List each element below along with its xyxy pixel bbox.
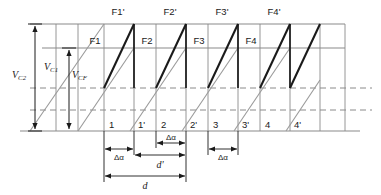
top-f-labels: F1' F2' F3' F4' — [112, 6, 281, 17]
d-label: d — [143, 180, 149, 191]
interval-label-3: 3 — [213, 119, 218, 130]
bold-ramp-1 — [104, 24, 134, 88]
bold-ramp-4 — [260, 24, 290, 88]
label-f1-prime: F1' — [112, 6, 125, 17]
interval-label-1: 1 — [109, 119, 114, 130]
voltage-arrows — [28, 24, 76, 131]
bold-ramp-2 — [156, 24, 186, 88]
label-f3: F3 — [193, 35, 204, 46]
interval-label-1p: 1' — [138, 119, 145, 130]
v-cf-label: VCF — [72, 69, 88, 81]
label-f2-prime: F2' — [164, 6, 177, 17]
diagram-canvas: VC2 VC1 VCF F1' F2' F3' F4' F1 F2 F3 F4 … — [0, 0, 381, 195]
label-f1: F1 — [89, 35, 100, 46]
delta-alpha-label-3: Δα — [218, 153, 228, 162]
label-f4-prime: F4' — [268, 6, 281, 17]
label-f3-prime: F3' — [216, 6, 229, 17]
v-c2-label: VC2 — [12, 69, 27, 81]
d-prime-label: d' — [156, 159, 164, 170]
dimension-labels: Δα Δα Δα d' d — [114, 133, 228, 191]
interval-label-4p: 4' — [294, 119, 301, 130]
interval-labels: 1 1' 2 2' 3 3' 4 4' — [109, 119, 301, 130]
waveform-diagram: VC2 VC1 VCF F1' F2' F3' F4' F1 F2 F3 F4 … — [0, 0, 381, 195]
interval-label-3p: 3' — [242, 119, 249, 130]
delta-alpha-label-1: Δα — [114, 153, 124, 162]
light-ramp-1 — [78, 48, 134, 131]
interval-label-4: 4 — [265, 119, 270, 130]
delta-alpha-label-2: Δα — [166, 133, 176, 142]
interval-label-2: 2 — [161, 119, 166, 130]
label-f4: F4 — [245, 35, 256, 46]
bold-ramp-5 — [290, 24, 320, 88]
bold-sawtooth-series — [104, 24, 320, 88]
bold-ramp-3 — [208, 24, 238, 88]
interval-label-2p: 2' — [190, 119, 197, 130]
label-f2: F2 — [141, 35, 152, 46]
